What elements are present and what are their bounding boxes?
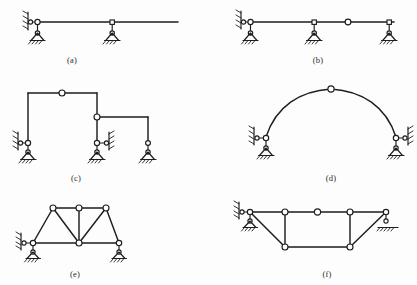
caption-e: (e) <box>70 269 80 279</box>
panel-c: (c) <box>13 90 156 183</box>
inner-diagonal <box>79 208 106 243</box>
internal-hinge <box>314 209 320 215</box>
hinge-node <box>104 141 108 145</box>
wall-hatching <box>408 126 413 144</box>
hinge-node <box>240 210 244 214</box>
arch-left-half <box>266 89 331 137</box>
hinge-node <box>35 19 40 24</box>
truss-joint <box>103 205 109 211</box>
caption-a: (a) <box>67 55 77 65</box>
crown-hinge <box>328 86 334 92</box>
wall-hatching <box>109 131 114 149</box>
truss-joint <box>347 209 353 215</box>
truss-joint <box>50 205 56 211</box>
panel-f: (f) <box>234 201 398 279</box>
truss-joint <box>282 244 288 250</box>
hinge-node <box>28 20 32 24</box>
caption-f: (f) <box>322 269 331 279</box>
truss-joint <box>282 209 288 215</box>
hinge-node <box>383 209 388 214</box>
internal-hinge <box>94 114 100 120</box>
hinge-node <box>146 141 151 146</box>
internal-hinge <box>345 19 351 25</box>
caption-d: (d) <box>326 173 337 183</box>
hinge-node <box>94 140 99 145</box>
hinge-node <box>403 136 407 140</box>
panel-a: (a) <box>23 11 178 65</box>
square-joint <box>110 20 114 24</box>
end-diagonal <box>106 208 119 243</box>
truss-joint <box>347 244 353 250</box>
wall-hatching <box>13 131 18 149</box>
diagram-canvas: (a) <box>0 0 417 285</box>
inner-diagonal <box>53 208 79 243</box>
hinge-node <box>116 240 121 245</box>
hinge-node <box>393 135 398 140</box>
wall-hatching <box>236 10 241 28</box>
square-joint <box>312 20 316 24</box>
end-diagonal <box>250 212 285 247</box>
truss-joint <box>76 205 82 211</box>
figure-sheet: (a) <box>0 0 417 285</box>
panel-b: (b) <box>236 10 397 65</box>
hinge-node <box>248 19 253 24</box>
hinge-node <box>241 20 245 24</box>
hinge-node <box>30 240 35 245</box>
wall-hatching <box>23 11 28 29</box>
truss-joint <box>76 240 82 246</box>
wall-hatching <box>234 201 239 218</box>
panel-e: (e) <box>16 205 127 279</box>
caption-c: (c) <box>71 173 81 183</box>
panel-d: (d) <box>249 86 413 183</box>
hinge-node <box>263 135 268 140</box>
wall-hatching <box>16 232 21 249</box>
hinge-node <box>247 209 252 214</box>
hinge-node <box>255 136 259 140</box>
end-diagonal <box>33 208 53 243</box>
caption-b: (b) <box>313 55 324 65</box>
hinge-node <box>25 140 30 145</box>
end-diagonal <box>350 212 386 247</box>
wall-hatching <box>249 126 254 144</box>
internal-hinge <box>59 90 65 96</box>
square-joint <box>387 20 391 24</box>
hinge-node <box>18 141 22 145</box>
arch-right-half <box>331 89 396 137</box>
hinge-node <box>22 241 26 245</box>
roller-node <box>384 219 388 223</box>
